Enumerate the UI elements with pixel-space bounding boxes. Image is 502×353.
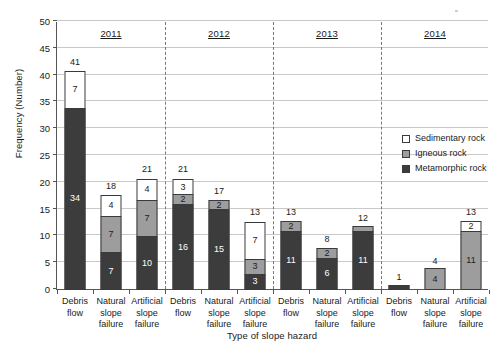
segment-value-label: 11 xyxy=(466,256,475,265)
bar-segment-metamorphic[interactable]: 3 xyxy=(245,274,266,290)
legend-item-metamorphic[interactable]: Metamorphic rock xyxy=(402,162,487,175)
segment-value-label: 7 xyxy=(72,85,77,94)
bar-total-label: 8 xyxy=(324,234,329,244)
y-tick-mark xyxy=(53,234,57,235)
bar-segment-igneous[interactable]: 2 xyxy=(209,200,230,211)
bar-stack[interactable]: 1623 xyxy=(173,176,194,289)
bar-group[interactable]: 11213 xyxy=(454,219,488,289)
bar-segment-metamorphic[interactable]: 11 xyxy=(353,231,374,290)
x-tick-mark xyxy=(381,290,382,294)
bar-segment-metamorphic[interactable]: 10 xyxy=(137,236,158,290)
segment-value-label: 16 xyxy=(178,243,188,252)
gridline xyxy=(57,20,488,21)
legend-swatch-icon xyxy=(402,165,410,173)
bar-segment-igneous[interactable]: 3 xyxy=(245,259,266,275)
segment-value-label: 4 xyxy=(108,201,113,210)
y-tick-mark xyxy=(53,261,57,262)
bar-segment-metamorphic[interactable]: 6 xyxy=(317,258,338,290)
bar-segment-igneous[interactable]: 4 xyxy=(425,268,446,289)
legend-item-sedimentary[interactable]: Sedimentary rock xyxy=(402,132,487,145)
legend-label: Igneous rock xyxy=(415,147,467,160)
bar-segment-igneous[interactable]: 2 xyxy=(173,194,194,205)
bar-group[interactable]: 107421 xyxy=(130,176,164,289)
bar-segment-sedimentary[interactable]: 3 xyxy=(173,179,194,195)
bar-total-label: 13 xyxy=(466,207,476,217)
y-tick-label: 15 xyxy=(39,203,50,214)
bar-group[interactable]: 33713 xyxy=(238,219,272,289)
bar-stack[interactable]: 1 xyxy=(389,284,410,289)
segment-value-label: 15 xyxy=(214,245,224,254)
segment-value-label: 11 xyxy=(358,256,367,265)
bar-stack[interactable]: 1074 xyxy=(137,176,158,289)
bar-group[interactable]: 15217 xyxy=(202,198,236,289)
bar-stack[interactable]: 4 xyxy=(425,268,446,289)
y-tick-label: 45 xyxy=(39,42,50,53)
year-label-2011: 2011 xyxy=(100,28,121,39)
x-tick-mark xyxy=(453,290,454,294)
bar-segment-metamorphic[interactable]: 1 xyxy=(389,285,410,290)
segment-value-label: 7 xyxy=(108,230,113,239)
x-tick-label: Artificialslopefailure xyxy=(445,296,497,331)
segment-value-label: 3 xyxy=(252,262,257,271)
bar-stack[interactable]: 774 xyxy=(101,193,122,289)
y-tick-label: 5 xyxy=(45,257,50,268)
bar-segment-igneous[interactable]: 7 xyxy=(101,216,122,254)
bar-segment-sedimentary[interactable]: 7 xyxy=(245,222,266,260)
bar-group[interactable]: 11112 xyxy=(346,225,380,289)
bar-segment-sedimentary[interactable]: 4 xyxy=(137,179,158,200)
x-tick-mark xyxy=(273,290,274,294)
bar-stack[interactable]: 112 xyxy=(281,219,302,289)
bar-stack[interactable]: 62 xyxy=(317,246,338,289)
bar-segment-metamorphic[interactable]: 34 xyxy=(65,108,86,290)
x-tick-label-line: failure xyxy=(337,319,389,331)
y-tick-mark xyxy=(53,47,57,48)
bar-segment-metamorphic[interactable]: 15 xyxy=(209,210,230,290)
y-tick-label: 40 xyxy=(39,69,50,80)
bar-segment-igneous[interactable]: 7 xyxy=(137,200,158,238)
legend-item-igneous[interactable]: Igneous rock xyxy=(402,147,487,160)
bar-segment-sedimentary[interactable]: 4 xyxy=(101,195,122,216)
bar-group[interactable]: 44 xyxy=(418,268,452,289)
segment-value-label: 3 xyxy=(252,277,257,286)
bar-stack[interactable]: 111 xyxy=(353,225,374,289)
bar-total-label: 18 xyxy=(106,181,116,191)
y-tick-mark xyxy=(53,20,57,21)
bar-stack[interactable]: 337 xyxy=(245,219,266,289)
y-tick-mark xyxy=(53,127,57,128)
year-label-2014: 2014 xyxy=(424,28,446,39)
bar-segment-igneous[interactable]: 2 xyxy=(281,221,302,232)
x-tick-label-line: failure xyxy=(445,319,497,331)
bar-segment-metamorphic[interactable]: 7 xyxy=(101,252,122,290)
legend: Sedimentary rockIgneous rockMetamorphic … xyxy=(402,132,487,177)
bar-group[interactable]: 11 xyxy=(382,284,416,289)
bar-segment-igneous[interactable]: 2 xyxy=(317,248,338,259)
bar-segment-igneous[interactable]: 11 xyxy=(461,231,482,290)
bar-segment-metamorphic[interactable]: 16 xyxy=(173,204,194,290)
bar-total-label: 13 xyxy=(286,207,296,217)
bar-segment-sedimentary[interactable]: 7 xyxy=(65,71,86,109)
bar-group[interactable]: 11213 xyxy=(274,219,308,289)
y-tick-label: 25 xyxy=(39,150,50,161)
segment-value-label: 2 xyxy=(324,249,329,258)
plot-area: 05101520253035404550 2011201220132014 34… xyxy=(56,22,488,290)
bar-group[interactable]: 77418 xyxy=(94,193,128,289)
segment-value-label: 7 xyxy=(144,214,149,223)
bar-segment-sedimentary[interactable]: 2 xyxy=(461,221,482,232)
segment-value-label: 2 xyxy=(288,222,293,231)
x-tick-mark xyxy=(489,290,490,294)
bar-segment-igneous[interactable]: 1 xyxy=(353,226,374,231)
segment-value-label: 6 xyxy=(324,269,329,278)
y-axis-title: Frequency (Number) xyxy=(13,34,24,194)
x-tick-mark xyxy=(57,290,58,294)
y-tick-mark xyxy=(53,181,57,182)
year-label-2013: 2013 xyxy=(316,28,338,39)
bar-group[interactable]: 162321 xyxy=(166,176,200,289)
bar-stack[interactable]: 112 xyxy=(461,219,482,289)
bar-segment-metamorphic[interactable]: 11 xyxy=(281,231,302,290)
bar-stack[interactable]: 347 xyxy=(65,69,86,289)
segment-value-label: 2 xyxy=(216,201,221,210)
bar-group[interactable]: 628 xyxy=(310,246,344,289)
x-tick-mark xyxy=(345,290,346,294)
bar-group[interactable]: 34741 xyxy=(58,69,92,289)
bar-stack[interactable]: 152 xyxy=(209,198,230,289)
